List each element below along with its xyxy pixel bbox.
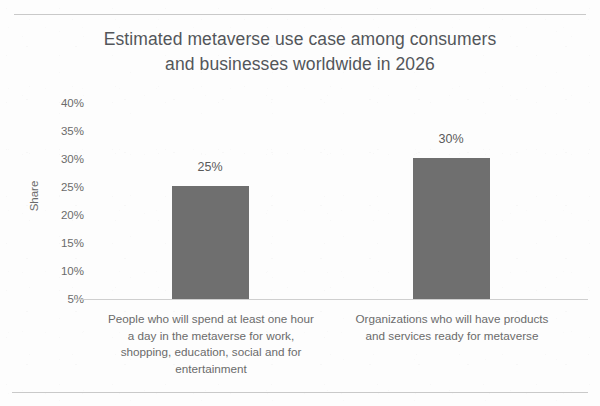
plot-area: Share 40% 35% 30% 25% 20% 15% 10% 5% 25%… <box>0 0 600 406</box>
y-tick-20: 20% <box>38 209 84 221</box>
x-category-label-1: People who will spend at least one hour … <box>86 311 336 377</box>
y-tick-35: 35% <box>38 125 84 137</box>
y-tick-15: 15% <box>38 237 84 249</box>
y-axis-tick-labels: 40% 35% 30% 25% 20% 15% 10% 5% <box>38 0 84 406</box>
bar-value-label-1: 25% <box>197 160 222 174</box>
y-tick-25: 25% <box>38 181 84 193</box>
bar-series-1[interactable] <box>172 186 249 299</box>
bar-series-2[interactable] <box>413 158 490 299</box>
y-tick-40: 40% <box>38 97 84 109</box>
bar-value-label-2: 30% <box>438 132 463 146</box>
x-axis-baseline <box>74 299 588 300</box>
y-tick-10: 10% <box>38 265 84 277</box>
x-category-label-2: Organizations who will have products and… <box>327 311 577 344</box>
chart-page: Estimated metaverse use case among consu… <box>0 0 600 406</box>
y-tick-30: 30% <box>38 153 84 165</box>
